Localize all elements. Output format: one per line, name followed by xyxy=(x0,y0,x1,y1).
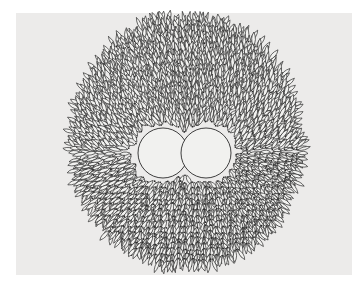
center-void-1 xyxy=(138,128,188,178)
radial-chevron-artwork xyxy=(0,0,364,284)
center-void-2 xyxy=(181,128,231,178)
